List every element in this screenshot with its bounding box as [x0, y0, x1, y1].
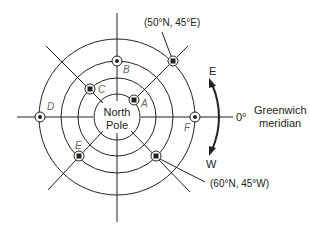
point-label-E: E	[75, 140, 82, 151]
point-marker-50N-45E	[168, 56, 178, 66]
callout-50N-45E: (50°N, 45°E)	[144, 17, 200, 28]
callout-leader-top	[162, 32, 171, 56]
meridian-ne	[131, 46, 188, 103]
point-label-D: D	[47, 101, 54, 112]
point-marker-F	[190, 112, 200, 122]
meridian-label: meridian	[259, 117, 301, 129]
point-label-B: B	[123, 64, 130, 75]
point-marker-C	[85, 84, 95, 94]
point-marker-60N-45W	[151, 151, 161, 161]
meridian-degree-label: 0°	[236, 111, 247, 123]
meridian-nw	[46, 46, 103, 103]
greenwich-label: Greenwich	[254, 104, 307, 116]
point-marker-D	[35, 112, 45, 122]
point-label-F: F	[184, 122, 191, 133]
north-pole-label-line1: North	[104, 106, 131, 118]
north-pole-label-line2: Pole	[106, 119, 128, 131]
direction-west-label: W	[206, 158, 217, 170]
point-marker-B	[112, 56, 122, 66]
callout-leader-bottom	[160, 159, 205, 182]
point-label-C: C	[98, 84, 106, 95]
direction-east-label: E	[209, 65, 216, 77]
point-label-A: A	[140, 98, 148, 109]
callout-60N-45W: (60°N, 45°W)	[210, 178, 269, 189]
point-marker-A	[129, 95, 139, 105]
arrowhead-east-icon	[209, 78, 216, 88]
polar-diagram: North Pole A B C D E F (50°N, 45°E) (60°…	[0, 0, 310, 231]
arrowhead-west-icon	[209, 146, 216, 156]
point-marker-E	[74, 151, 84, 161]
